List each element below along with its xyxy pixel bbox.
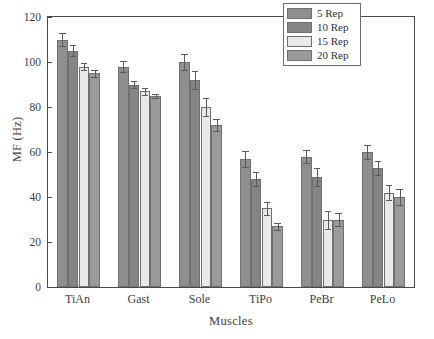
- legend-swatch-icon: [287, 36, 312, 47]
- error-bar-cap-lower: [152, 98, 159, 99]
- bar: [240, 159, 251, 287]
- error-bar-cap-lower: [70, 56, 77, 57]
- x-axis-tick-label-gast: Gast: [128, 292, 150, 307]
- bar: [68, 51, 79, 287]
- error-bar-cap-upper: [131, 81, 138, 82]
- error-bar-cap-upper: [253, 172, 260, 173]
- bar: [140, 91, 151, 287]
- error-bar-cap-upper: [91, 70, 98, 71]
- error-bar: [217, 119, 218, 130]
- error-bar-cap-lower: [192, 89, 199, 90]
- bar: [272, 226, 283, 287]
- legend-item-15-rep: 15 Rep: [287, 35, 357, 48]
- error-bar: [328, 211, 329, 229]
- bar: [323, 220, 334, 288]
- y-axis-tick-label: 40: [8, 191, 41, 203]
- error-bar: [278, 223, 279, 230]
- error-bar-cap-upper: [203, 98, 210, 99]
- y-axis-tick-mark: [48, 197, 52, 198]
- error-bar-cap-upper: [375, 161, 382, 162]
- legend-swatch-icon: [287, 8, 312, 19]
- y-axis-tick-mark: [48, 62, 52, 63]
- x-axis-tick-label-pebr: PeBr: [310, 292, 334, 307]
- y-axis-tick-label: 20: [8, 236, 41, 248]
- error-bar-cap-upper: [386, 185, 393, 186]
- error-bar-cap-lower: [142, 95, 149, 96]
- error-bar-cap-lower: [364, 159, 371, 160]
- error-bar-cap-upper: [192, 71, 199, 72]
- error-bar-cap-lower: [242, 167, 249, 168]
- error-bar-cap-lower: [213, 131, 220, 132]
- error-bar-cap-upper: [59, 33, 66, 34]
- error-bar-cap-upper: [264, 202, 271, 203]
- bar: [301, 157, 312, 288]
- error-bar-cap-upper: [70, 45, 77, 46]
- bar: [373, 168, 384, 287]
- error-bar-cap-lower: [120, 72, 127, 73]
- error-bar: [123, 61, 124, 72]
- error-bar: [317, 168, 318, 186]
- error-bar: [367, 145, 368, 159]
- error-bar-cap-upper: [303, 150, 310, 151]
- error-bar: [73, 45, 74, 56]
- error-bar: [267, 202, 268, 216]
- error-bar-cap-lower: [59, 46, 66, 47]
- y-axis-tick-label: 60: [8, 146, 41, 158]
- error-bar-cap-lower: [396, 205, 403, 206]
- error-bar-cap-lower: [386, 200, 393, 201]
- bar: [129, 85, 140, 288]
- error-bar: [184, 54, 185, 70]
- y-axis-tick-label: 100: [8, 56, 41, 68]
- error-bar: [389, 185, 390, 201]
- error-bar-cap-lower: [314, 186, 321, 187]
- y-axis-tick-mark: [48, 242, 52, 243]
- bar: [118, 67, 129, 288]
- x-axis-title: Muscles: [47, 314, 415, 329]
- error-bar-cap-lower: [181, 70, 188, 71]
- error-bar-cap-upper: [314, 168, 321, 169]
- bar: [394, 197, 405, 287]
- error-bar-cap-upper: [81, 63, 88, 64]
- x-axis-tick-label-sole: Sole: [189, 292, 210, 307]
- bar: [333, 220, 344, 288]
- error-bar-cap-lower: [131, 88, 138, 89]
- error-bar-cap-upper: [274, 223, 281, 224]
- error-bar-cap-lower: [274, 230, 281, 231]
- chart-legend: 5 Rep10 Rep15 Rep20 Rep: [283, 3, 361, 66]
- error-bar: [256, 172, 257, 186]
- error-bar-cap-upper: [335, 213, 342, 214]
- bar: [201, 107, 212, 287]
- y-axis-tick-label: 0: [8, 281, 41, 293]
- error-bar-cap-lower: [203, 116, 210, 117]
- y-axis-tick-label: 80: [8, 101, 41, 113]
- error-bar-cap-lower: [253, 186, 260, 187]
- error-bar-cap-lower: [81, 70, 88, 71]
- error-bar: [84, 63, 85, 70]
- legend-item-label: 15 Rep: [317, 36, 348, 47]
- error-bar-cap-upper: [181, 54, 188, 55]
- bar: [211, 125, 222, 287]
- legend-item-10-rep: 10 Rep: [287, 21, 357, 34]
- error-bar-cap-lower: [325, 229, 332, 230]
- error-bar-cap-upper: [396, 189, 403, 190]
- bar: [362, 152, 373, 287]
- y-axis-tick-mark: [48, 287, 52, 288]
- error-bar-cap-upper: [325, 211, 332, 212]
- y-axis-tick-mark: [48, 107, 52, 108]
- bar: [312, 177, 323, 287]
- legend-swatch-icon: [287, 22, 312, 33]
- legend-item-label: 20 Rep: [317, 50, 348, 61]
- error-bar-cap-upper: [242, 151, 249, 152]
- y-axis-tick-label: 120: [8, 11, 41, 23]
- bar: [79, 67, 90, 288]
- error-bar-cap-lower: [91, 77, 98, 78]
- error-bar-cap-upper: [142, 88, 149, 89]
- error-bar: [306, 150, 307, 164]
- error-bar-cap-lower: [375, 175, 382, 176]
- bar: [179, 62, 190, 287]
- error-bar-cap-lower: [303, 163, 310, 164]
- error-bar-cap-upper: [364, 145, 371, 146]
- legend-swatch-icon: [287, 50, 312, 61]
- error-bar-cap-upper: [152, 94, 159, 95]
- y-axis-tick-mark: [48, 17, 52, 18]
